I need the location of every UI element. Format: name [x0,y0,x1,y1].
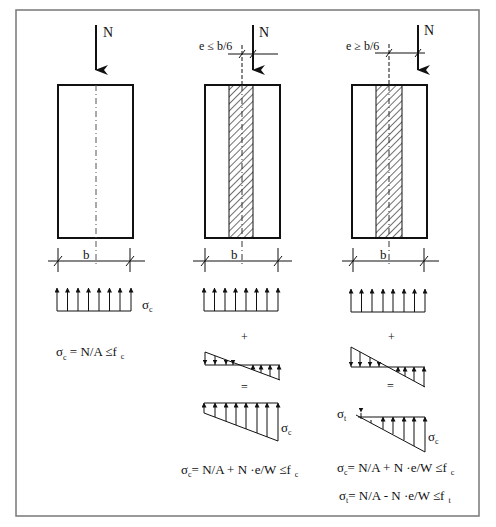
column-small-eccentricity [193,25,292,441]
width-label: b [380,247,387,262]
uniform-stress-block [57,288,131,311]
load-label: N [259,25,269,40]
eccentricity-label: e ≥ b/6 [346,39,379,53]
eccentricity-label: e ≤ b/6 [199,39,232,53]
uniform-stress-block [204,288,278,311]
uniform-stress-block [351,289,425,312]
width-label: b [231,247,238,262]
width-label: b [83,247,90,262]
kern-hatch [229,86,253,237]
formula-compression: σc= N/A + N ·e/W ≤fc [337,460,455,477]
plus-sign: + [241,330,248,344]
load-label: N [103,25,113,40]
bending-stress-block [205,352,280,380]
formula-tension: σt= N/A - N ·e/W ≤ft [339,488,451,505]
column-centric [48,25,145,311]
resulting-stress-block [204,403,278,441]
equals-sign: = [387,379,394,393]
width-dimension [342,248,439,272]
formula-compression: σc= N/A + N ·e/W ≤fc [181,462,299,479]
plus-sign: + [388,330,395,344]
equals-sign: = [241,380,248,394]
column-stress-diagram: N b σc σc = N/A ≤fc [0,0,496,527]
result-stress-label: σc [428,429,439,446]
formula-compression: σc = N/A ≤fc [56,344,125,362]
load-label: N [424,23,434,38]
resulting-stress-block [356,413,425,452]
kern-hatch [376,86,402,237]
tension-stress-label: σt [337,406,347,423]
result-stress-label: σc [281,420,292,437]
stress-label: σc [142,297,153,314]
